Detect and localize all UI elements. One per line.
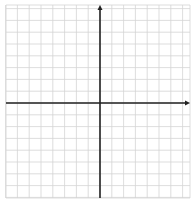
coordinate-plane — [0, 0, 191, 202]
grid-lines — [6, 5, 190, 198]
x-axis-arrow-icon — [185, 101, 190, 106]
y-axis-arrow-icon — [98, 5, 103, 10]
